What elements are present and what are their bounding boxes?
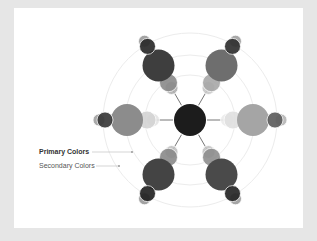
legend-primary-colors: Primary Colors [39, 148, 89, 155]
color-wheel-diagram [0, 0, 317, 241]
legend-secondary-dot [118, 165, 120, 167]
outer-circle-left [97, 112, 113, 128]
outer-circle-lower-right [225, 186, 241, 202]
legend-secondary-colors: Secondary Colors [39, 162, 95, 169]
primary-circle-right [237, 104, 269, 136]
outer-circle-right [267, 112, 283, 128]
outer-circle-lower-left [140, 186, 156, 202]
center-circle [174, 104, 206, 136]
legend-primary-dot [131, 151, 133, 153]
outer-circle-upper-left [140, 38, 156, 54]
primary-circle-left [111, 104, 143, 136]
outer-circle-upper-right [225, 38, 241, 54]
